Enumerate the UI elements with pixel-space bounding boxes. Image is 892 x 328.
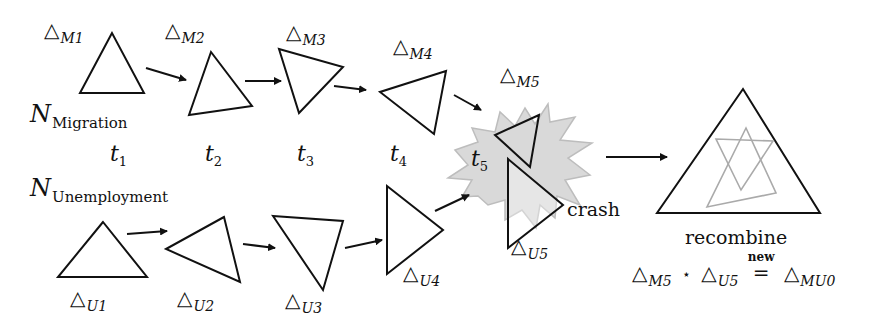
- time-label-t1: t1: [110, 143, 127, 165]
- triangle-m4: [380, 71, 446, 134]
- network-label-migration: NMigration: [30, 102, 127, 126]
- label-m2: △M2: [165, 20, 205, 40]
- star-operator: ⋆: [682, 266, 691, 282]
- network-label-unemployment: NUnemployment: [30, 176, 168, 200]
- triangle-u3: [273, 216, 343, 290]
- new-equals: new =: [753, 263, 770, 283]
- triangle-u1: [58, 222, 147, 277]
- arrow-u4-u5: [435, 195, 469, 211]
- arrow-u2-u3: [243, 244, 275, 248]
- triangle-m2: [189, 52, 252, 115]
- arrow-m3-m4: [334, 86, 366, 90]
- triangle-recombined: [657, 89, 820, 213]
- time-label-t4: t4: [390, 143, 407, 165]
- label-u4: △U4: [403, 263, 440, 283]
- time-label-t5: t5: [471, 148, 488, 170]
- triangle-m1: [80, 33, 144, 93]
- time-label-t2: t2: [205, 143, 222, 165]
- recombine-label: recombine: [685, 228, 787, 247]
- arrow-u1-u2: [127, 231, 167, 234]
- ghost-triangles: [707, 128, 776, 207]
- time-label-t3: t3: [297, 143, 314, 165]
- label-u3: △U3: [285, 290, 322, 310]
- triangle-u2: [166, 217, 240, 282]
- arrow-m1-m2: [146, 68, 186, 80]
- label-u2: △U2: [177, 288, 214, 308]
- arrow-m4-m5: [454, 95, 481, 110]
- triangle-m3: [279, 49, 343, 113]
- crash-label: crash: [567, 200, 620, 219]
- label-m4: △M4: [393, 36, 433, 56]
- arrow-u3-u4: [345, 240, 382, 248]
- label-m5: △M5: [500, 64, 540, 84]
- label-u1: △U1: [70, 288, 107, 308]
- label-m1: △M1: [44, 20, 84, 40]
- label-m3: △M3: [286, 22, 326, 42]
- label-u5: △U5: [511, 236, 548, 256]
- recombine-equation: △M5 ⋆ △U5 new = △MU0: [632, 263, 835, 283]
